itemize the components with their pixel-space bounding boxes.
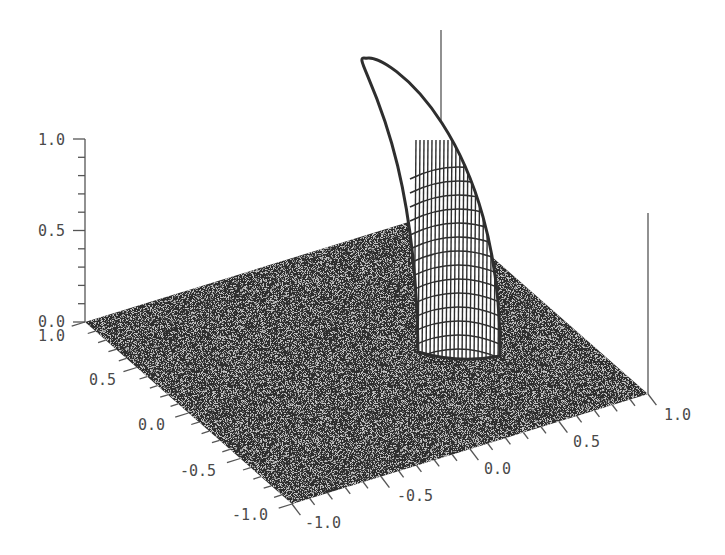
- y-tick-label: -0.5: [180, 462, 216, 480]
- y-tick: [88, 331, 96, 333]
- z-tick-label: 0.5: [38, 222, 65, 240]
- y-tick-label: 1.0: [38, 327, 65, 345]
- x-tick-label: 0.0: [484, 460, 511, 478]
- y-tick: [212, 440, 220, 442]
- x-tick: [612, 405, 617, 411]
- y-tick: [175, 413, 188, 417]
- x-tick: [595, 411, 600, 417]
- y-tick: [119, 358, 127, 360]
- surface-plot: 1.00.50.01.00.50.0-0.5-1.0-1.0-0.50.00.5…: [0, 0, 725, 555]
- z-tick-label: 1.0: [38, 131, 65, 149]
- y-tick: [98, 340, 106, 342]
- x-tick: [470, 449, 478, 460]
- surface-mesh-plane: [85, 212, 648, 504]
- y-tick: [253, 477, 261, 479]
- y-tick: [274, 495, 282, 497]
- y-tick-label: -1.0: [232, 506, 268, 524]
- x-tick: [488, 444, 493, 450]
- y-tick-label: 0.0: [138, 416, 165, 434]
- y-tick: [150, 386, 158, 388]
- x-tick: [648, 394, 656, 405]
- x-tick: [417, 466, 422, 472]
- x-tick: [345, 488, 350, 494]
- y-tick: [222, 449, 230, 451]
- x-tick: [363, 482, 368, 488]
- y-tick: [123, 368, 136, 372]
- x-tick: [506, 438, 511, 444]
- y-tick: [264, 486, 272, 488]
- x-tick: [452, 455, 457, 461]
- y-tick: [140, 377, 148, 379]
- y-tick: [202, 431, 210, 433]
- x-tick: [577, 416, 582, 422]
- x-tick: [381, 477, 389, 488]
- x-tick: [399, 471, 404, 477]
- y-tick: [227, 459, 240, 463]
- x-tick: [328, 493, 333, 499]
- x-tick: [541, 427, 546, 433]
- x-tick: [310, 499, 315, 505]
- y-tick-label: 0.5: [89, 371, 116, 389]
- x-tick-label: -1.0: [305, 514, 341, 532]
- y-tick: [108, 349, 116, 351]
- y-tick: [160, 395, 168, 397]
- mesh-plane: [85, 212, 648, 504]
- x-tick: [630, 400, 635, 406]
- x-tick: [292, 504, 300, 515]
- y-tick: [191, 422, 199, 424]
- x-tick: [559, 422, 567, 433]
- x-tick: [523, 433, 528, 439]
- x-tick-label: -0.5: [397, 487, 433, 505]
- y-tick: [243, 468, 251, 470]
- x-tick-label: 1.0: [664, 406, 691, 424]
- y-tick: [171, 404, 179, 406]
- x-tick-label: 0.5: [573, 433, 600, 451]
- y-tick: [279, 504, 292, 508]
- x-tick: [434, 460, 439, 466]
